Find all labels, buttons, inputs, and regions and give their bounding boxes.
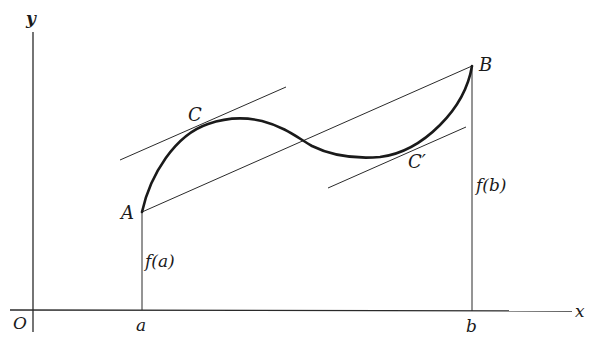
tangent-line-c xyxy=(120,87,286,160)
origin-label: O xyxy=(13,313,27,333)
point-label-c-prime: C′ xyxy=(408,151,426,172)
diagram-canvas: y x O a b A B C C′ f(a) f(b) xyxy=(0,0,594,350)
y-axis-label: y xyxy=(25,8,37,28)
tick-label-b: b xyxy=(466,316,477,336)
segment-label-fb: f(b) xyxy=(474,175,506,195)
point-label-b: B xyxy=(478,54,492,75)
x-axis xyxy=(10,310,572,311)
mean-value-theorem-figure: y x O a b A B C C′ f(a) f(b) xyxy=(0,0,594,350)
segment-label-fa: f(a) xyxy=(143,251,175,271)
point-label-c: C xyxy=(188,104,202,125)
x-axis-label: x xyxy=(575,301,585,321)
point-label-a: A xyxy=(119,202,134,223)
tick-label-a: a xyxy=(136,315,146,335)
